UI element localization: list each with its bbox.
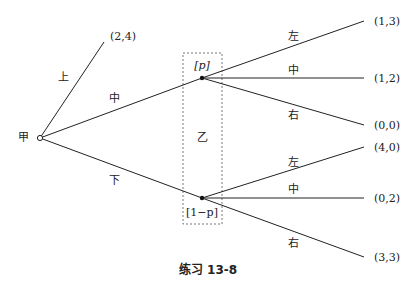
player-label-info-set: 乙 <box>197 131 208 144</box>
payoff-lower-middle: (0,2) <box>374 192 400 205</box>
payoff-upper-right: (0,0) <box>374 119 400 132</box>
lower-decision-node <box>200 196 204 200</box>
lower-action-right: 右 <box>288 236 299 250</box>
lower-action-left: 左 <box>288 156 299 169</box>
action-label-down: 下 <box>109 174 120 187</box>
upper-decision-node <box>200 76 204 80</box>
payoff-upper-left: (1,3) <box>374 15 400 28</box>
lower-branch-right <box>202 198 364 257</box>
action-label-up: 上 <box>58 71 69 84</box>
player-label-root: 甲 <box>18 131 29 144</box>
branch-down <box>40 138 202 198</box>
upper-branch-right <box>202 78 364 125</box>
lower-branch-left <box>202 147 364 198</box>
payoff-lower-right: (3,3) <box>374 251 400 264</box>
lower-action-middle: 中 <box>288 183 299 196</box>
action-label-middle: 中 <box>109 92 120 105</box>
upper-action-middle: 中 <box>288 64 299 77</box>
root-node <box>37 135 42 140</box>
upper-branch-left <box>202 21 364 78</box>
game-tree-diagram: 甲 乙 上 中 下 [p] [1−p] (2,4) 左 中 右 (1,3) (1… <box>0 0 417 291</box>
belief-lower: [1−p] <box>186 206 218 219</box>
figure-caption: 练习 13-8 <box>179 262 237 277</box>
upper-action-right: 右 <box>288 108 299 122</box>
payoff-lower-left: (4,0) <box>374 141 400 154</box>
payoff-upper-middle: (1,2) <box>374 72 400 85</box>
branch-up <box>40 42 104 138</box>
belief-upper: [p] <box>194 59 210 72</box>
branch-middle <box>40 78 202 138</box>
payoff-up: (2,4) <box>110 30 136 43</box>
upper-action-left: 左 <box>288 30 299 43</box>
